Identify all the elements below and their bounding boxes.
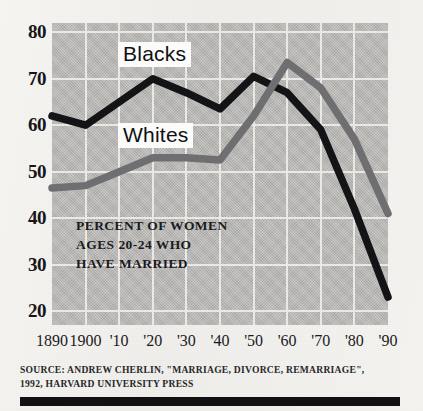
footer-rule <box>20 397 400 406</box>
series-lines <box>52 23 388 325</box>
source-line-1: SOURCE: ANDREW CHERLIN, "MARRIAGE, DIVOR… <box>20 363 412 377</box>
x-tick-90: '90 <box>365 332 411 350</box>
series-label-blacks: Blacks <box>118 42 191 67</box>
chart-figure: 80706050403020 BlacksWhites PERCENT OF W… <box>0 0 423 411</box>
y-tick-20: 20 <box>6 300 46 322</box>
series-label-whites: Whites <box>118 123 193 148</box>
y-tick-30: 30 <box>6 254 46 276</box>
source-line-2: 1992, HARVARD UNIVERSITY PRESS <box>20 377 412 391</box>
source-note: SOURCE: ANDREW CHERLIN, "MARRIAGE, DIVOR… <box>20 363 412 391</box>
y-tick-40: 40 <box>6 207 46 229</box>
y-tick-80: 80 <box>6 21 46 43</box>
plot-area: BlacksWhites PERCENT OF WOMEN AGES 20-24… <box>52 23 388 325</box>
y-tick-50: 50 <box>6 161 46 183</box>
series-line-whites <box>52 62 388 213</box>
chart-caption: PERCENT OF WOMEN AGES 20-24 WHO HAVE MAR… <box>76 216 228 273</box>
y-tick-70: 70 <box>6 68 46 90</box>
x-axis-tick-labels: 18901900'10'20'30'40'50'60'70'80'90 <box>0 332 423 358</box>
y-tick-60: 60 <box>6 114 46 136</box>
